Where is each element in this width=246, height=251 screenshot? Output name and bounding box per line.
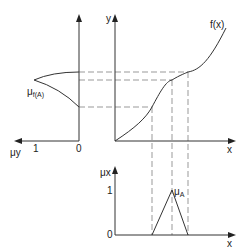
mu-y-tick-zero: 0 (76, 143, 82, 154)
mu-f-a-upper-curve (34, 72, 79, 80)
projection-lines (79, 72, 188, 235)
mu-y-tick-one: 1 (33, 143, 39, 154)
mu-f-a-label: μf(A) (27, 86, 44, 99)
bottom-x-axis-label: x (227, 238, 232, 249)
function-plot: y x f(x) (106, 13, 232, 155)
mu-x-tick-zero: 0 (107, 229, 113, 240)
mu-x-axis-label: μx (100, 167, 111, 178)
f-x-curve (115, 28, 226, 141)
y-axis-label: y (106, 13, 111, 24)
left-plot: μf(A) μy 1 0 (10, 18, 82, 158)
membership-plot: μx 1 0 x μA (100, 167, 232, 249)
mu-x-tick-one: 1 (107, 185, 113, 196)
x-axis-label: x (227, 144, 232, 155)
fuzzy-extension-principle-diagram: μf(A) μy 1 0 y x f(x) μx 1 0 x μA (0, 0, 246, 251)
f-x-label: f(x) (210, 19, 224, 30)
mu-a-label: μA (174, 186, 185, 198)
mu-y-axis-label: μy (10, 147, 21, 158)
